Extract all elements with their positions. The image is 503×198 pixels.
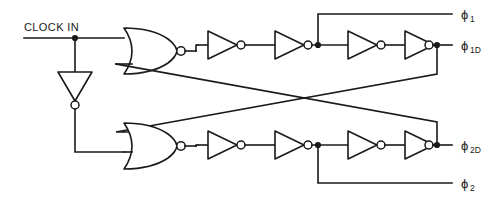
phi1d-subscript: 1D — [470, 45, 481, 55]
top-inverter-chain — [198, 14, 452, 59]
top-inverter-3-bubble — [377, 41, 385, 49]
input-inverter-bubble — [71, 101, 79, 109]
phi2d-label: ϕ — [461, 138, 468, 153]
phi1-label: ϕ — [461, 7, 468, 22]
bottom-inverter-4-bubble — [425, 141, 433, 149]
clock-input-net — [24, 35, 124, 72]
nor-gate-bottom — [124, 123, 198, 169]
bottom-inverter-1-triangle — [208, 131, 237, 159]
input-inverter-triangle — [58, 72, 92, 101]
phi1d-label: ϕ — [461, 38, 468, 53]
bottom-inverter-2-bubble — [304, 141, 312, 149]
junction-dot-phi2d-tap — [434, 142, 440, 148]
bottom-inverter-1-bubble — [237, 141, 245, 149]
top-inverter-2-triangle — [275, 31, 304, 59]
bottom-inverter-3-triangle — [348, 131, 377, 159]
nor-gate-bottom-bubble — [177, 142, 185, 150]
logic-diagram: CLOCK IN ϕ 1 ϕ 1D ϕ 2D ϕ 2 — [0, 0, 503, 198]
phi1d-label-group: ϕ 1D — [461, 38, 481, 55]
phi2-output-wire — [318, 145, 452, 183]
phi1-output-wire — [318, 14, 452, 45]
phi1-subscript: 1 — [470, 14, 475, 24]
nor-gate-top-output-riser — [196, 45, 198, 51]
phi2-subscript: 2 — [470, 183, 475, 193]
input-inverter — [58, 72, 124, 152]
bottom-inverter-2-triangle — [275, 131, 304, 159]
phi2-label: ϕ — [461, 176, 468, 191]
bottom-inverter-chain — [198, 131, 452, 183]
phi2d-label-group: ϕ 2D — [461, 138, 481, 155]
top-inverter-4-bubble — [425, 41, 433, 49]
nor-gate-bottom-body — [124, 123, 177, 169]
top-inverter-1-bubble — [237, 41, 245, 49]
top-inverter-1-triangle — [208, 31, 237, 59]
phi2d-subscript: 2D — [470, 145, 481, 155]
input-inverter-output-wire — [75, 109, 124, 152]
nor-gate-top-bubble — [177, 47, 185, 55]
phi1-label-group: ϕ 1 — [461, 7, 475, 24]
phi2-label-group: ϕ 2 — [461, 176, 475, 193]
top-inverter-2-bubble — [304, 41, 312, 49]
top-inverter-3-triangle — [348, 31, 377, 59]
bottom-inverter-3-bubble — [377, 141, 385, 149]
clock-in-label: CLOCK IN — [24, 21, 79, 33]
schematic-canvas: CLOCK IN ϕ 1 ϕ 1D ϕ 2D ϕ 2 — [0, 0, 503, 198]
nor-gate-top — [116, 28, 198, 74]
